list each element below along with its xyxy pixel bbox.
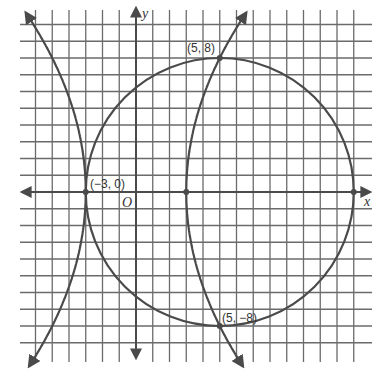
coordinate-plane: y x O (−3, 0) (5, 8) (5, −8) <box>0 0 388 374</box>
x-axis-label: x <box>363 194 371 209</box>
point-label-5-8: (5, 8) <box>187 41 215 55</box>
y-axis-label: y <box>140 6 149 21</box>
curves <box>26 13 354 366</box>
graph-figure: y x O (−3, 0) (5, 8) (5, −8) <box>0 0 388 374</box>
grid-lines <box>20 10 372 362</box>
origin-label: O <box>122 195 132 210</box>
point-marker <box>83 189 89 195</box>
point-label-neg3-0: (−3, 0) <box>90 177 125 191</box>
point-marker <box>351 189 357 195</box>
labels: y x O (−3, 0) (5, 8) (5, −8) <box>90 6 371 325</box>
point-marker <box>183 189 189 195</box>
point-marker <box>217 55 223 61</box>
point-label-5-neg8: (5, −8) <box>222 311 257 325</box>
parabola-left-curve <box>26 13 86 366</box>
